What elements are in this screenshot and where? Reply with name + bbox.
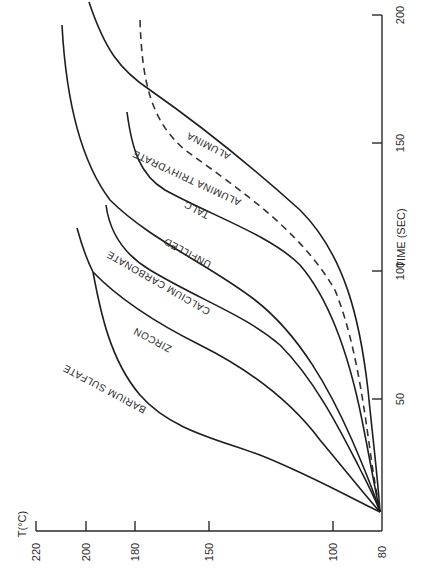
t-tick-200: 200 [80, 543, 92, 561]
heating-curves-chart: 220 200 180 150 100 80 T(°C) 50 100 150 … [0, 0, 422, 573]
t-tick-150: 150 [203, 543, 215, 561]
t-tick-80: 80 [376, 546, 388, 558]
curve-calcium-carbonate [106, 205, 380, 512]
time-tick-50: 50 [394, 393, 406, 405]
t-tick-180: 180 [129, 543, 141, 561]
label-zircon: ZIRCON [132, 326, 174, 355]
time-tick-200: 200 [394, 6, 406, 24]
label-talc: TALC [182, 199, 211, 221]
temperature-axis: 220 200 180 150 100 80 T(°C) [16, 511, 388, 561]
t-tick-220: 220 [30, 543, 42, 561]
time-tick-150: 150 [394, 134, 406, 152]
time-axis-label: TIME (SEC) [395, 208, 407, 267]
t-axis-label: T(°C) [16, 511, 28, 537]
time-axis: 50 100 150 200 TIME (SEC) [372, 6, 407, 531]
label-unfilled: UNFILLED [162, 236, 213, 270]
t-tick-100: 100 [327, 543, 339, 561]
curve-unfilled [62, 25, 380, 512]
